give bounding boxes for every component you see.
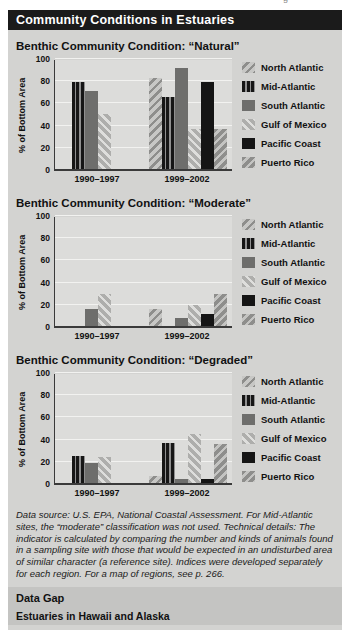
bar-slot [98, 58, 111, 169]
legend-item-north-atlantic: North Atlantic [242, 376, 326, 387]
legend-item-puerto-rico: Puerto Rico [242, 314, 326, 325]
plot-area [54, 217, 232, 328]
footnote: Data source: U.S. EPA, National Coastal … [16, 509, 334, 580]
chart-title-degraded: Benthic Community Condition: “Degraded” [16, 354, 342, 366]
y-tick-label: 80 [41, 76, 50, 86]
legend-swatch-south-atlantic [242, 257, 255, 268]
bar-slot [214, 58, 227, 169]
plot-wrap: 1990–19971999–2002 [54, 60, 233, 187]
bar-slot [149, 58, 162, 169]
bar-slot [59, 58, 72, 169]
x-tick-label: 1990–1997 [57, 488, 137, 498]
bar-gulf-of-mexico [98, 294, 111, 326]
bar-slot [201, 58, 214, 169]
legend-swatch-puerto-rico [242, 471, 255, 482]
bar-gulf-of-mexico [98, 457, 111, 483]
bar-slot [59, 215, 72, 326]
plot-wrap: 1990–19971999–2002 [54, 217, 233, 344]
bar-slot [149, 372, 162, 483]
legend-swatch-puerto-rico [242, 314, 255, 325]
legend-label: North Atlantic [261, 376, 323, 387]
legend-swatch-south-atlantic [242, 100, 255, 111]
bar-slot [162, 372, 175, 483]
legend-label: Gulf of Mexico [261, 433, 326, 444]
bar-slot [188, 372, 201, 483]
bar-slot [214, 372, 227, 483]
bar-slot [162, 58, 175, 169]
x-tick-label: 1990–1997 [57, 174, 137, 184]
legend: North AtlanticMid-AtlanticSouth Atlantic… [242, 374, 326, 490]
y-tick-label: 20 [41, 300, 50, 310]
bar-slot [201, 215, 214, 326]
bar-slot [175, 58, 188, 169]
legend-swatch-north-atlantic [242, 219, 255, 230]
page-edge-text-fragment: g [283, 0, 292, 5]
legend-label: South Atlantic [261, 414, 325, 425]
bar-pacific-coast [201, 314, 214, 326]
legend-item-mid-atlantic: Mid-Atlantic [242, 238, 326, 249]
bar-gulf-of-mexico [188, 305, 201, 326]
legend-label: Pacific Coast [261, 452, 321, 463]
legend-item-north-atlantic: North Atlantic [242, 219, 326, 230]
legend-item-gulf-of-mexico: Gulf of Mexico [242, 433, 326, 444]
bar-south-atlantic [85, 91, 98, 169]
legend-swatch-gulf-of-mexico [242, 276, 255, 287]
legend-label: North Atlantic [261, 219, 323, 230]
bar-pacific-coast [201, 82, 214, 169]
legend: North AtlanticMid-AtlanticSouth Atlantic… [242, 217, 326, 333]
bar-south-atlantic [85, 463, 98, 483]
bar-slot [188, 215, 201, 326]
bar-group-1999-2002 [149, 58, 227, 169]
legend-label: Puerto Rico [261, 157, 314, 168]
legend-swatch-gulf-of-mexico [242, 119, 255, 130]
x-tick-label: 1999–2002 [147, 174, 227, 184]
bar-mid-atlantic [72, 82, 85, 169]
y-tick-label: 60 [41, 412, 50, 422]
legend-label: Mid-Atlantic [261, 395, 315, 406]
bar-gulf-of-mexico [188, 129, 201, 169]
bar-group-1999-2002 [149, 215, 227, 326]
legend-item-mid-atlantic: Mid-Atlantic [242, 395, 326, 406]
legend-label: North Atlantic [261, 62, 323, 73]
bar-south-atlantic [85, 309, 98, 326]
bar-gulf-of-mexico [98, 114, 111, 170]
bar-pacific-coast [201, 479, 214, 483]
x-axis-labels: 1990–19971999–2002 [54, 485, 232, 501]
legend-item-gulf-of-mexico: Gulf of Mexico [242, 119, 326, 130]
bar-slot [85, 58, 98, 169]
bar-slot [72, 215, 85, 326]
bar-south-atlantic [175, 479, 188, 483]
bar-slot [85, 372, 98, 483]
chart-body: % of Bottom Area 020406080100 1990–19971… [16, 374, 342, 501]
y-tick-label: 20 [41, 457, 50, 467]
bar-slot [72, 58, 85, 169]
bar-slot [149, 215, 162, 326]
legend-item-pacific-coast: Pacific Coast [242, 452, 326, 463]
chart-title-natural: Benthic Community Condition: “Natural” [16, 40, 342, 52]
x-tick-label: 1999–2002 [147, 331, 227, 341]
bar-mid-atlantic [72, 456, 85, 483]
chart-title-moderate: Benthic Community Condition: “Moderate” [16, 197, 342, 209]
bar-puerto-rico [214, 294, 227, 326]
legend-item-south-atlantic: South Atlantic [242, 100, 326, 111]
y-axis-label: % of Bottom Area [16, 374, 30, 485]
bar-slot [59, 372, 72, 483]
bar-slot [124, 372, 137, 483]
y-tick-label: 60 [41, 255, 50, 265]
bar-gulf-of-mexico [188, 434, 201, 483]
bar-slot [162, 215, 175, 326]
y-axis-label: % of Bottom Area [16, 217, 30, 328]
plot-area [54, 374, 232, 485]
legend-label: Gulf of Mexico [261, 276, 326, 287]
y-axis-ticks: 020406080100 [30, 60, 54, 171]
y-tick-label: 40 [41, 435, 50, 445]
legend-label: Pacific Coast [261, 138, 321, 149]
bar-puerto-rico [214, 444, 227, 483]
bar-slot [124, 58, 137, 169]
figure-header: Community Conditions in Estuaries [8, 10, 342, 30]
legend: North AtlanticMid-AtlanticSouth Atlantic… [242, 60, 326, 176]
bar-mid-atlantic [162, 443, 175, 483]
legend-swatch-pacific-coast [242, 295, 255, 306]
legend-label: Puerto Rico [261, 314, 314, 325]
chart-body: % of Bottom Area 020406080100 1990–19971… [16, 217, 342, 344]
